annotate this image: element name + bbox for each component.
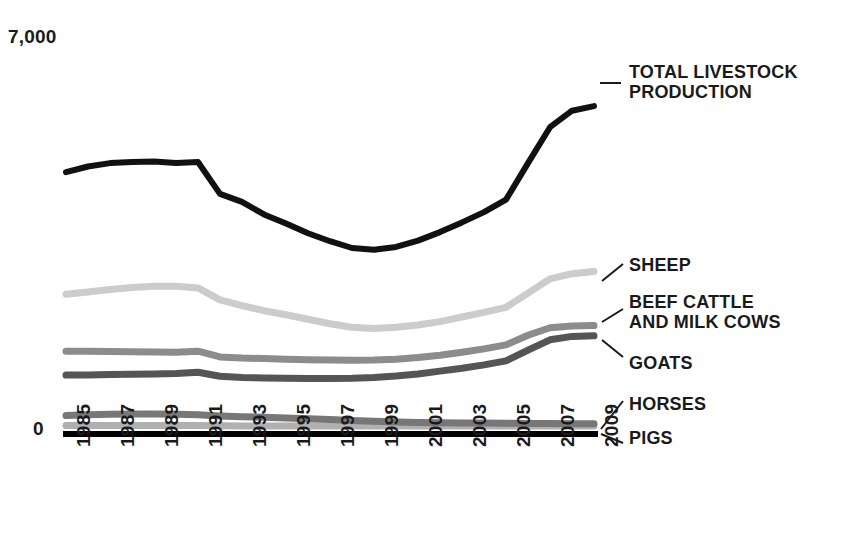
- leader-goats: [602, 340, 623, 357]
- leader-horses: [601, 401, 623, 429]
- series-line-total-livestock-production: [66, 106, 594, 250]
- leader-pigs: [601, 434, 623, 443]
- legend-label-total-livestock-production: TOTAL LIVESTOCK PRODUCTION: [629, 62, 798, 102]
- leader-sheep: [602, 264, 623, 281]
- legend-label-beef-cattle-and-milk-cows: BEEF CATTLE AND MILK COWS: [629, 292, 781, 332]
- livestock-production-chart: 7,000 0 19851987198919911993199519971999…: [0, 0, 857, 549]
- legend-label-goats: GOATS: [629, 353, 693, 373]
- series-line-sheep: [66, 271, 594, 328]
- leader-beef: [602, 309, 623, 322]
- legend-label-horses: HORSES: [629, 394, 706, 414]
- legend-label-pigs: PIGS: [629, 428, 673, 448]
- legend-label-sheep: SHEEP: [629, 255, 691, 275]
